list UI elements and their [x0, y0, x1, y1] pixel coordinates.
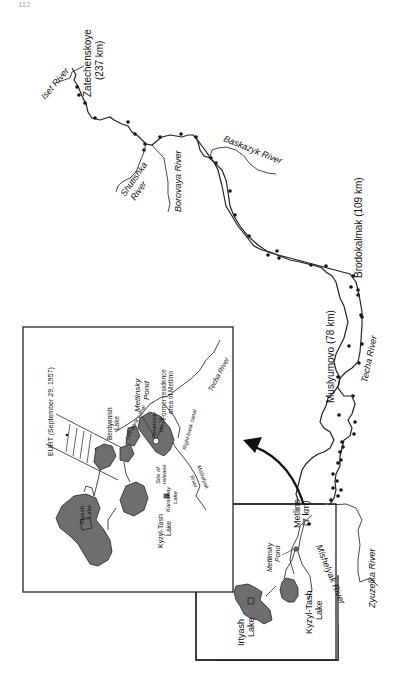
irtyash-inset-label-1: Irtyash	[79, 506, 85, 524]
upper-inset: EURT (September 29, 1957) Berdyanish Lak…	[23, 327, 233, 592]
iset-river-label: Iset River	[39, 65, 72, 101]
reservoir-label-1: Reservoir	[151, 414, 157, 438]
reservoir-label-2: No.10	[158, 417, 164, 432]
former-residence-label-2: area of Metlino	[167, 371, 174, 414]
metlinsky-pond-label-2: Pond	[274, 545, 281, 562]
metlinsky-pond-label-1: Metlinsky	[266, 542, 274, 572]
kyzyl-tash-inset-label-2: Lake	[165, 521, 172, 536]
zatechenskoye-distance: (237 km)	[94, 41, 105, 80]
brodokalmak-label: Brodokalmak (109 km)	[353, 177, 364, 278]
kyzyl-tash-inset-label-1: Kyzyl-Tash	[157, 514, 165, 548]
kyzyl-tash-label-1: Kyzyl-Tash	[304, 590, 314, 634]
site-of-release-label-2: release	[161, 464, 167, 484]
metlino-distance: (7 km)	[301, 501, 311, 527]
borovaya-river	[152, 145, 170, 212]
irtyash-label-1: Irtyash	[236, 619, 246, 646]
berdyanish-label-2: Lake	[113, 416, 120, 430]
techa-river-label: Techa River	[359, 334, 379, 384]
arrow-head-icon	[243, 437, 262, 453]
former-residence-label-1: Former residence	[160, 369, 167, 420]
eurt-label: EURT (September 29, 1957)	[47, 367, 55, 456]
karachay-label-2: Lake	[172, 490, 178, 504]
map-figure: Iset River Zatechenskoye (237 km) Shutis…	[0, 0, 397, 688]
karachay-label-1: Karachay	[165, 486, 171, 512]
irtyash-inset-label-2: Lake	[86, 504, 92, 518]
zyuzelka-river-label: Zyuzelka River	[367, 547, 377, 609]
muslyumovo-label: Muslyumovo (78 km)	[325, 310, 336, 403]
borovaya-river-label: Borovaya River	[173, 149, 183, 212]
irtyash-label-2: Lake	[246, 617, 256, 637]
baskazyk-river-label: Baskazyk River	[222, 134, 284, 167]
zatechenskoye-label: Zatechenskoye	[82, 29, 93, 97]
metlinsky-inset-label-2: Pond	[142, 381, 151, 400]
kyzyl-tash-label-2: Lake	[314, 600, 324, 620]
